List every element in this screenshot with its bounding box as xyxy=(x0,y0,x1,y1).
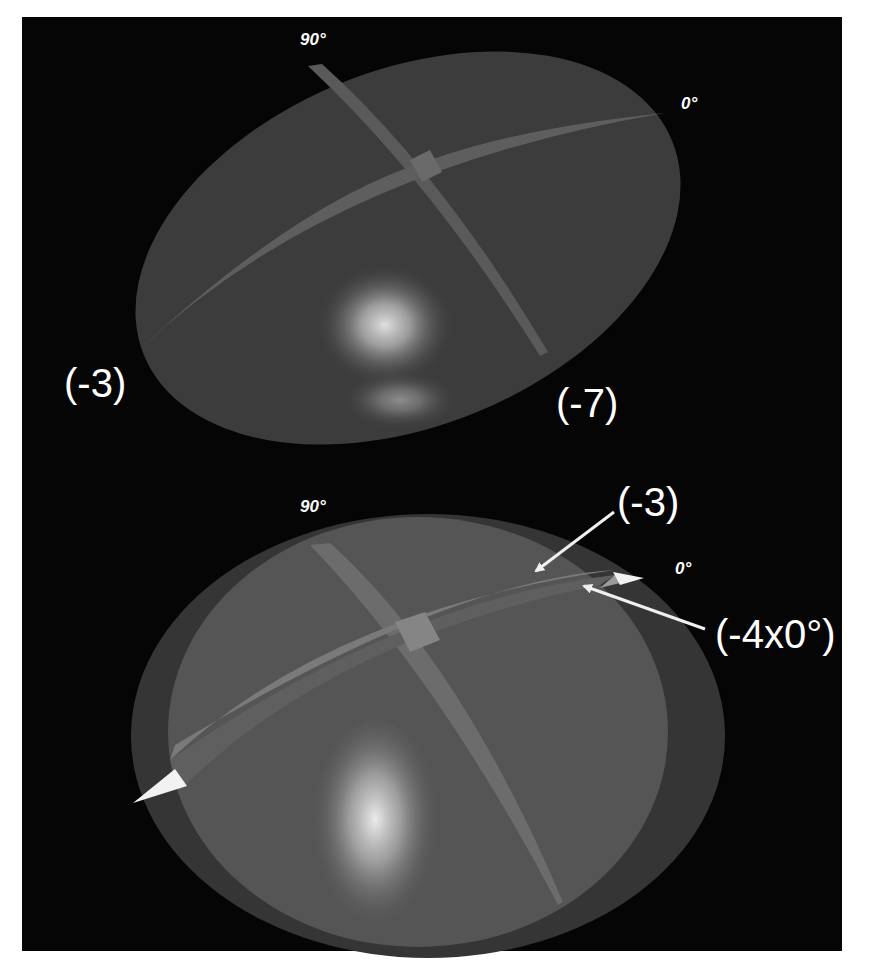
top-dome xyxy=(77,0,739,520)
top-label-left-region: (-3) xyxy=(64,361,126,405)
bottom-dome-group xyxy=(131,514,725,958)
bottom-dome-highlight xyxy=(310,720,440,940)
top-dome-highlight-lower xyxy=(340,370,460,430)
figure-svg: 90° 0° (-3) (-7) 90° 0° (-3) (-4x0°) xyxy=(0,0,873,973)
top-dome-highlight xyxy=(315,263,455,387)
bottom-label-90deg: 90° xyxy=(300,497,326,516)
top-label-90deg: 90° xyxy=(300,30,326,49)
top-label-right-region: (-7) xyxy=(556,381,618,425)
callout-label-lower: (-4x0°) xyxy=(715,612,835,656)
callout-label-upper: (-3) xyxy=(617,480,679,524)
top-label-0deg: 0° xyxy=(681,94,697,113)
bottom-label-0deg: 0° xyxy=(675,559,691,578)
top-dome-group xyxy=(77,0,739,520)
